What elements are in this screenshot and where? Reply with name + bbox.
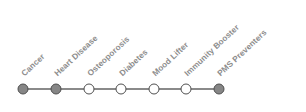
data-point-heart-disease[interactable] [51,84,62,95]
data-point-cancer[interactable] [18,84,29,95]
point-label-cancer: Cancer [20,53,46,78]
data-point-pms-preventers[interactable] [214,84,225,95]
data-point-immunity-booster[interactable] [181,84,192,95]
point-label-pms-preventers: PMS Preventers [216,29,268,78]
point-label-immunity-booster: Immunity Booster [183,23,241,78]
point-label-mood-lifter: Mood Lifter [151,41,190,78]
data-point-diabetes[interactable] [116,84,127,95]
point-label-osteoporosis: Osteoporosis [86,35,131,78]
data-point-mood-lifter[interactable] [149,84,160,95]
data-point-osteoporosis[interactable] [84,84,95,95]
chart-canvas: Cancer Heart Disease Osteoporosis Diabet… [0,0,306,112]
point-label-diabetes: Diabetes [118,48,149,78]
point-label-heart-disease: Heart Disease [53,34,99,78]
